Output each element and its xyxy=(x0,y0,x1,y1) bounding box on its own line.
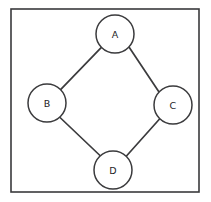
node-label-d: D xyxy=(109,165,117,176)
graph-node-a[interactable]: A xyxy=(96,15,134,53)
graph-node-b[interactable]: B xyxy=(28,84,66,122)
diagram-canvas: ABCD xyxy=(0,0,211,202)
node-label-a: A xyxy=(112,29,119,40)
graph-diagram: ABCD xyxy=(0,0,211,202)
graph-node-d[interactable]: D xyxy=(94,151,132,189)
node-label-c: C xyxy=(170,100,177,111)
graph-node-c[interactable]: C xyxy=(154,86,192,124)
node-label-b: B xyxy=(44,98,51,109)
